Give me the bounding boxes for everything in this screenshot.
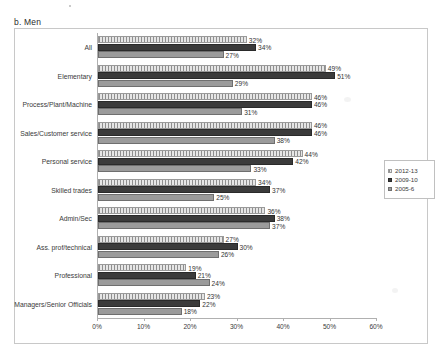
x-axis-tick-label: 60%: [369, 323, 382, 330]
bar-row: 46%: [98, 122, 312, 129]
legend-label: 2012-13: [395, 167, 418, 174]
bar-2005-6[interactable]: [98, 308, 182, 315]
figure-men: b. Men 0%10%20%30%40%50%60% All32%34%27%…: [0, 0, 441, 354]
scan-artifact: [344, 97, 351, 102]
bar-value-label: 42%: [295, 158, 308, 165]
bar-value-label: 29%: [235, 80, 248, 87]
bar-2005-6[interactable]: [98, 222, 270, 229]
x-axis-tick: [237, 318, 238, 321]
bar-2012-13[interactable]: [98, 236, 224, 243]
bar-2009-10[interactable]: [98, 44, 256, 51]
bar-value-label: 33%: [253, 165, 266, 172]
bar-2009-10[interactable]: [98, 158, 293, 165]
category-label: All: [84, 44, 92, 51]
bar-2005-6[interactable]: [98, 251, 219, 258]
legend-swatch-2009-10-icon: [388, 178, 392, 182]
legend-label: 2009-10: [395, 176, 418, 183]
bar-value-label: 27%: [226, 236, 239, 243]
bar-2005-6[interactable]: [98, 137, 275, 144]
legend-item[interactable]: 2005-6: [388, 185, 430, 192]
bar-2012-13[interactable]: [98, 207, 265, 214]
bar-2005-6[interactable]: [98, 165, 251, 172]
bar-value-label: 38%: [277, 215, 290, 222]
x-axis-tick: [283, 318, 284, 321]
bar-value-label: 38%: [277, 137, 290, 144]
category-label: Sales/Customer service: [20, 129, 92, 136]
legend-swatch-2012-13-icon: [388, 169, 392, 173]
bar-row: 38%: [98, 137, 275, 144]
category-label: Managers/Senior Officials: [14, 300, 92, 307]
bar-2009-10[interactable]: [98, 272, 196, 279]
bar-row: 26%: [98, 251, 219, 258]
bar-2012-13[interactable]: [98, 93, 312, 100]
bar-group: All32%34%27%: [97, 36, 376, 58]
bar-2009-10[interactable]: [98, 300, 200, 307]
x-axis-tick: [190, 318, 191, 321]
bar-2012-13[interactable]: [98, 150, 303, 157]
bar-2012-13[interactable]: [98, 122, 312, 129]
bar-2012-13[interactable]: [98, 264, 186, 271]
bar-value-label: 34%: [258, 44, 271, 51]
bar-row: 27%: [98, 51, 224, 58]
bar-2005-6[interactable]: [98, 80, 233, 87]
bar-value-label: 46%: [314, 122, 327, 129]
category-label: Personal service: [42, 158, 92, 165]
category-label: Professional: [55, 272, 92, 279]
bar-2012-13[interactable]: [98, 65, 326, 72]
category-label: Admin/Sec: [59, 215, 92, 222]
bar-2012-13[interactable]: [98, 293, 205, 300]
bar-row: 30%: [98, 243, 238, 250]
bar-group: Ass. prof/technical27%30%26%: [97, 236, 376, 258]
bar-row: 34%: [98, 44, 256, 51]
figure-title: b. Men: [14, 17, 41, 27]
bar-2009-10[interactable]: [98, 186, 270, 193]
bar-value-label: 37%: [272, 186, 285, 193]
bar-2009-10[interactable]: [98, 215, 275, 222]
bar-value-label: 21%: [198, 272, 211, 279]
bar-2009-10[interactable]: [98, 243, 238, 250]
bar-row: 44%: [98, 150, 303, 157]
bar-value-label: 27%: [226, 51, 239, 58]
bar-2005-6[interactable]: [98, 279, 210, 286]
bar-value-label: 24%: [212, 279, 225, 286]
bar-row: 51%: [98, 72, 335, 79]
bar-row: 21%: [98, 272, 196, 279]
bar-row: 34%: [98, 179, 256, 186]
x-axis-tick-label: 40%: [276, 323, 289, 330]
bar-2009-10[interactable]: [98, 101, 312, 108]
bar-2012-13[interactable]: [98, 36, 247, 43]
x-axis-tick: [97, 318, 98, 321]
bar-value-label: 18%: [184, 308, 197, 315]
bar-value-label: 46%: [314, 101, 327, 108]
bar-2009-10[interactable]: [98, 72, 335, 79]
legend-item[interactable]: 2009-10: [388, 176, 430, 183]
bar-2005-6[interactable]: [98, 51, 224, 58]
bar-2009-10[interactable]: [98, 129, 312, 136]
bar-row: 46%: [98, 129, 312, 136]
bar-value-label: 37%: [272, 222, 285, 229]
bar-row: 32%: [98, 36, 247, 43]
bar-row: 25%: [98, 194, 214, 201]
bar-2005-6[interactable]: [98, 108, 242, 115]
bar-row: 42%: [98, 158, 293, 165]
bar-row: 29%: [98, 80, 233, 87]
bar-row: 49%: [98, 65, 326, 72]
bar-row: 22%: [98, 300, 200, 307]
bar-row: 31%: [98, 108, 242, 115]
bar-group: Admin/Sec36%38%37%: [97, 207, 376, 229]
x-axis-tick-label: 50%: [323, 323, 336, 330]
bar-row: 46%: [98, 93, 312, 100]
bar-row: 36%: [98, 207, 265, 214]
bar-row: 33%: [98, 165, 251, 172]
bar-2012-13[interactable]: [98, 179, 256, 186]
category-label: Process/Plant/Machine: [22, 101, 92, 108]
bar-value-label: 51%: [337, 72, 350, 79]
x-axis-tick-label: 20%: [183, 323, 196, 330]
bar-2005-6[interactable]: [98, 194, 214, 201]
bar-group: Elementary49%51%29%: [97, 65, 376, 87]
bar-value-label: 44%: [305, 150, 318, 157]
bar-row: 27%: [98, 236, 224, 243]
bar-value-label: 26%: [221, 251, 234, 258]
x-axis-tick-label: 0%: [92, 323, 102, 330]
legend-item[interactable]: 2012-13: [388, 167, 430, 174]
